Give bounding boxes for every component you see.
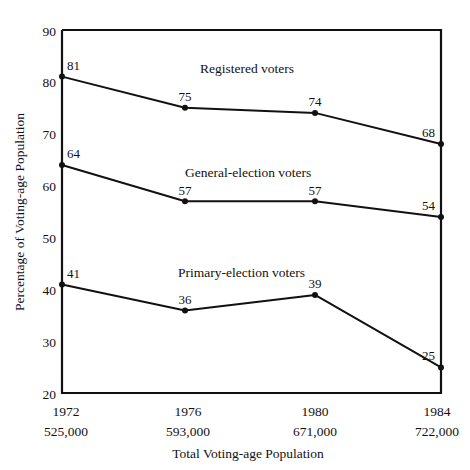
data-point-general-1980 [312, 198, 318, 204]
x-tick-year-1972: 1972 [53, 404, 80, 419]
y-tick-label-40: 40 [43, 283, 57, 298]
data-point-primary-1972 [59, 282, 65, 288]
series-label-registered-voters: Registered voters [200, 61, 294, 76]
data-point-primary-1976 [182, 307, 188, 313]
y-tick-label-50: 50 [43, 231, 57, 246]
x-tick-year-1984: 1984 [424, 404, 451, 419]
y-tick-label-70: 70 [43, 127, 57, 142]
data-label-general-1976: 57 [179, 183, 193, 198]
y-tick-label-20: 20 [43, 387, 57, 402]
data-point-registered-1972 [59, 74, 65, 80]
axis-frame [62, 30, 441, 393]
y-tick-label-80: 80 [43, 75, 57, 90]
data-label-registered-1976: 75 [179, 89, 192, 104]
series-label-primary-election-voters: Primary-election voters [178, 265, 305, 280]
series-line-primary-election-voters [62, 285, 441, 368]
series-line-registered-voters [62, 77, 441, 144]
data-label-primary-1972: 41 [67, 266, 80, 281]
data-label-primary-1976: 36 [179, 292, 193, 307]
data-label-registered-1980: 74 [309, 94, 323, 109]
data-label-registered-1972: 81 [67, 58, 80, 73]
data-label-primary-1980: 39 [309, 276, 322, 291]
data-label-general-1984: 54 [422, 198, 436, 213]
data-point-primary-1984 [438, 364, 444, 370]
y-tick-label-30: 30 [43, 335, 57, 350]
data-label-general-1980: 57 [309, 183, 323, 198]
x-tick-year-1976: 1976 [175, 404, 202, 419]
data-label-primary-1984: 25 [422, 348, 435, 363]
series-label-general-election-voters: General-election voters [185, 165, 311, 180]
data-label-general-1972: 64 [67, 146, 81, 161]
x-tick-population-1980: 671,000 [293, 424, 337, 439]
chart-figure: 90 80 70 60 50 40 30 20 81 75 74 68 Regi… [0, 0, 470, 470]
data-point-registered-1984 [438, 141, 444, 147]
y-axis-title: Percentage of Voting-age Population [12, 113, 27, 311]
data-point-general-1972 [59, 162, 65, 168]
data-point-registered-1976 [182, 105, 188, 111]
x-tick-year-1980: 1980 [302, 404, 329, 419]
data-point-general-1976 [182, 198, 188, 204]
data-point-general-1984 [438, 214, 444, 220]
x-tick-population-1984: 722,000 [415, 424, 459, 439]
data-label-registered-1984: 68 [422, 125, 435, 140]
data-point-registered-1980 [312, 110, 318, 116]
x-tick-population-1972: 525,000 [44, 424, 88, 439]
x-axis-title: Total Voting-age Population [172, 446, 324, 461]
data-point-primary-1980 [312, 292, 318, 298]
y-tick-label-90: 90 [43, 24, 57, 39]
line-chart-canvas: 90 80 70 60 50 40 30 20 81 75 74 68 Regi… [0, 0, 470, 470]
y-tick-label-60: 60 [43, 179, 57, 194]
x-tick-population-1976: 593,000 [166, 424, 210, 439]
